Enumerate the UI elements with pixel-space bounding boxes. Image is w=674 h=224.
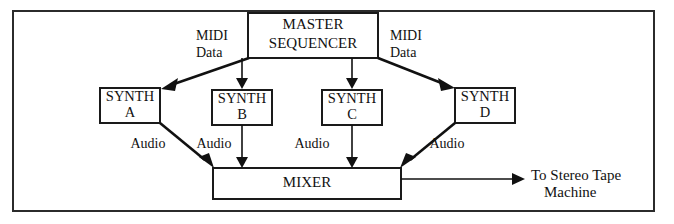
node-synth-c[interactable]: SYNTH C xyxy=(322,90,382,125)
node-synth-d[interactable]: SYNTH D xyxy=(455,88,515,123)
edge-sequencer-to-synth-c xyxy=(346,58,358,89)
synth-c-label-line2: C xyxy=(347,106,357,122)
edge-synth-b-to-mixer xyxy=(236,125,248,168)
edge-mixer-to-output xyxy=(401,173,525,185)
edge-sequencer-to-synth-d xyxy=(378,58,455,91)
midi-data-left-line2: Data xyxy=(196,45,223,60)
arrowhead-sequencer-synth-d xyxy=(438,78,455,91)
label-audio-b: Audio xyxy=(197,136,232,151)
synth-c-label-line1: SYNTH xyxy=(328,90,377,106)
label-midi-data-right: MIDI Data xyxy=(390,28,422,60)
label-audio-a: Audio xyxy=(131,136,166,151)
node-master-sequencer[interactable]: MASTER SEQUENCER xyxy=(248,13,378,58)
label-audio-c: Audio xyxy=(295,136,330,151)
label-output-destination: To Stereo Tape Machine xyxy=(531,167,621,200)
diagram-canvas: MASTER SEQUENCER SYNTH A SYNTH B SYNTH C… xyxy=(0,0,674,224)
synth-b-label-line2: B xyxy=(237,106,247,122)
output-label-line1: To Stereo Tape xyxy=(531,167,621,183)
midi-data-left-line1: MIDI xyxy=(196,28,228,43)
synth-a-label-line2: A xyxy=(125,104,136,120)
synth-a-label-line1: SYNTH xyxy=(106,88,155,104)
arrowhead-synth-c-mixer xyxy=(346,157,358,168)
signal-flow-diagram: MASTER SEQUENCER SYNTH A SYNTH B SYNTH C… xyxy=(0,0,674,224)
synth-d-label-line2: D xyxy=(480,104,490,120)
arrowhead-sequencer-synth-a xyxy=(161,78,178,91)
label-midi-data-left: MIDI Data xyxy=(196,28,228,60)
arrowhead-synth-d-mixer xyxy=(400,153,416,168)
master-sequencer-label-line2: SEQUENCER xyxy=(269,35,357,51)
synth-d-label-line1: SYNTH xyxy=(461,88,510,104)
arrowhead-sequencer-synth-b xyxy=(236,78,248,89)
master-sequencer-label-line1: MASTER xyxy=(283,16,344,32)
midi-data-right-line2: Data xyxy=(390,45,417,60)
label-audio-d: Audio xyxy=(430,136,465,151)
edge-synth-c-to-mixer xyxy=(346,125,358,168)
arrowhead-synth-b-mixer xyxy=(236,157,248,168)
arrowhead-sequencer-synth-c xyxy=(346,78,358,89)
arrowhead-mixer-output xyxy=(512,173,525,185)
edge-line-sequencer-synth-d xyxy=(378,58,444,84)
node-synth-a[interactable]: SYNTH A xyxy=(100,88,160,123)
synth-b-label-line1: SYNTH xyxy=(218,90,267,106)
output-label-line2: Machine xyxy=(544,184,597,200)
edge-sequencer-to-synth-a xyxy=(161,58,249,91)
node-synth-b[interactable]: SYNTH B xyxy=(212,90,272,125)
midi-data-right-line1: MIDI xyxy=(390,28,422,43)
mixer-label: MIXER xyxy=(283,174,331,190)
node-mixer[interactable]: MIXER xyxy=(213,168,401,199)
edge-line-sequencer-synth-a xyxy=(171,58,249,85)
